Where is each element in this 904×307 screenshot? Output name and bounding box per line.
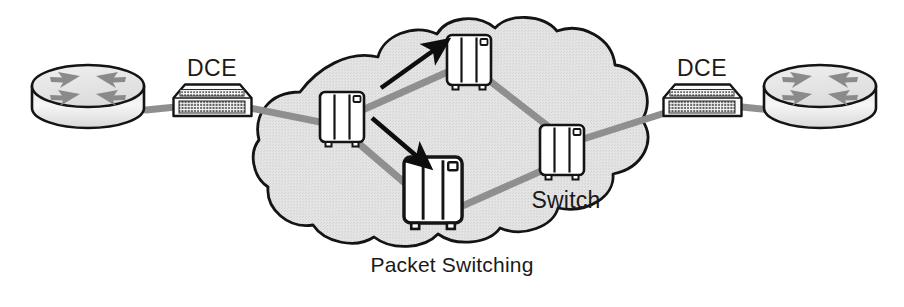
router-left[interactable] [32,65,144,128]
switch-west[interactable] [320,92,364,147]
switch-north[interactable] [447,35,491,90]
cloud-caption: Packet Switching [370,253,533,276]
switch-icon [540,125,584,180]
link-routerleft-dceleft [146,107,176,110]
router-right[interactable] [764,65,876,128]
diagram-canvas: DCE Switch DCE [0,0,904,307]
switch-icon [320,92,364,147]
router-icon [764,65,876,128]
dce-left[interactable] [174,85,252,117]
switch-icon [447,35,491,90]
router-icon [32,65,144,128]
dce-icon [664,85,742,117]
dce-icon [174,85,252,117]
switch-south[interactable] [404,157,462,229]
switch-east[interactable] [540,125,584,180]
dce-right[interactable] [664,85,742,117]
packet-switching-diagram: DCE Switch DCE [0,0,904,307]
dce-right-label: DCE [677,55,727,81]
switch-icon [404,157,462,229]
switch-label: Switch [532,187,601,213]
dce-left-label: DCE [187,55,237,81]
